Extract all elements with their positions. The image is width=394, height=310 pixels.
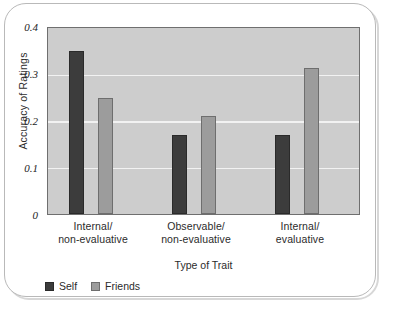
bar-self-internal-evaluative	[275, 135, 290, 214]
legend-item-self: Self	[45, 280, 77, 292]
x-category-label-3-line2: evaluative	[255, 233, 345, 246]
y-axis-title: Accuracy of Ratings	[17, 26, 29, 176]
y-tick-label-0: 0	[4, 209, 38, 221]
bar-chart-figure: Accuracy of Ratings 0.4 0.3 0.2 0.1 0 In…	[0, 0, 394, 310]
x-category-label-2-line1: Observable/	[167, 220, 225, 232]
bar-friends-internal-evaluative	[304, 68, 319, 214]
bar-self-observable-non-evaluative	[172, 135, 187, 214]
y-tick-label-0.1: 0.1	[4, 162, 38, 174]
chart-legend: Self Friends	[45, 280, 140, 292]
legend-label-self: Self	[59, 280, 77, 292]
x-category-label-3: Internal/ evaluative	[255, 220, 345, 246]
legend-label-friends: Friends	[105, 280, 140, 292]
x-category-label-3-line1: Internal/	[281, 220, 320, 232]
bar-self-internal-non-evaluative	[69, 51, 84, 214]
bar-friends-internal-non-evaluative	[98, 98, 113, 214]
y-tick-label-0.2: 0.2	[4, 115, 38, 127]
bar-friends-observable-non-evaluative	[201, 116, 216, 214]
legend-item-friends: Friends	[91, 280, 140, 292]
x-axis-title: Type of Trait	[47, 259, 360, 271]
x-category-label-2-line2: non-evaluative	[151, 233, 241, 246]
y-tick-label-0.3: 0.3	[4, 68, 38, 80]
y-tick-label-0.4: 0.4	[4, 21, 38, 33]
legend-swatch-self-icon	[45, 282, 54, 291]
x-category-label-1-line2: non-evaluative	[48, 233, 138, 246]
x-category-label-1: Internal/ non-evaluative	[48, 220, 138, 246]
legend-swatch-friends-icon	[91, 282, 100, 291]
plot-area	[47, 27, 360, 215]
x-category-label-1-line1: Internal/	[74, 220, 113, 232]
x-category-label-2: Observable/ non-evaluative	[151, 220, 241, 246]
